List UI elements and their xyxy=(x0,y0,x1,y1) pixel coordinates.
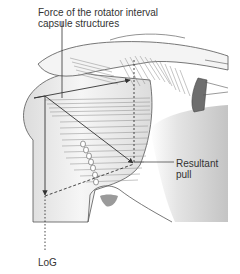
label-line: Force of the rotator interval xyxy=(38,7,158,18)
resultant-pull-label: Resultant pull xyxy=(176,158,218,180)
label-line: pull xyxy=(176,169,218,180)
label-line: Resultant xyxy=(176,158,218,169)
inferior-recess xyxy=(100,195,118,207)
shoulder-force-diagram: Force of the rotator interval capsule st… xyxy=(0,0,240,274)
line-of-gravity-label: LoG xyxy=(38,257,57,268)
rotator-interval-force-label: Force of the rotator interval capsule st… xyxy=(38,7,158,29)
label-line: capsule structures xyxy=(38,18,158,29)
clavicle-acromion xyxy=(38,34,228,76)
diagram-artwork xyxy=(0,0,240,274)
